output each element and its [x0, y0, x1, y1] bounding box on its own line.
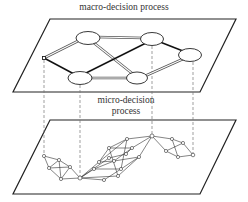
macro-node-c — [179, 49, 202, 62]
macro-node-e — [127, 72, 148, 84]
micro-label-line2: process — [80, 106, 172, 117]
macro-nodes — [43, 32, 202, 85]
macro-node-d — [68, 72, 92, 85]
micro-label-line1: micro-decision — [80, 95, 172, 106]
macro-decision-label: macro-decision process — [0, 2, 248, 13]
macro-node-a — [76, 32, 100, 45]
micro-edges — [44, 136, 193, 180]
micro-decision-label: micro-decision process — [80, 95, 172, 117]
macro-node-start — [43, 57, 46, 60]
macro-node-b — [141, 33, 164, 46]
micro-plane — [13, 120, 236, 194]
